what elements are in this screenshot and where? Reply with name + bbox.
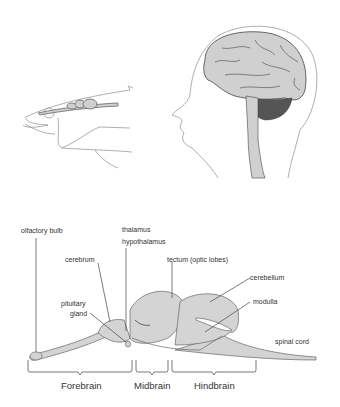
label-pituitary-line2: gland (70, 310, 87, 318)
vertebrate-brain-diagram: olfactory bulb thalamus hypothalamus cer… (21, 226, 316, 391)
brain-comparison-diagram: olfactory bulb thalamus hypothalamus cer… (0, 0, 340, 407)
label-olfactory-bulb: olfactory bulb (21, 227, 63, 235)
fish-head-illustration (23, 86, 133, 168)
region-hindbrain: Hindbrain (194, 380, 235, 391)
label-spinal-cord: spinal cord (275, 338, 309, 346)
human-head-illustration (172, 26, 317, 178)
region-braces (28, 360, 256, 375)
pituitary-gland-shape (126, 341, 131, 347)
label-cerebellum: cerebellum (250, 274, 284, 281)
olfactory-bulb-shape (30, 352, 42, 360)
label-modulla: modulla (253, 298, 278, 305)
label-tectum: tectum (optic lobes) (167, 256, 228, 264)
label-cerebrum: cerebrum (65, 256, 95, 263)
region-forebrain: Forebrain (61, 380, 102, 391)
label-hypothalamus: hypothalamus (122, 238, 166, 246)
region-midbrain: Midbrain (134, 380, 170, 391)
cerebrum-shape (204, 32, 306, 100)
label-thalamus: thalamus (122, 226, 151, 233)
tectum-region (130, 291, 183, 343)
label-pituitary-line1: pituitary (61, 300, 86, 308)
